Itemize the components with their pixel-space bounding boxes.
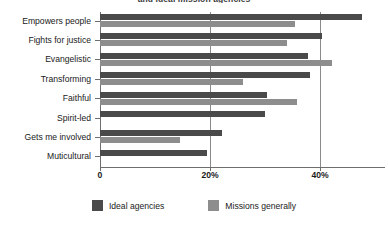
bar-missions-generally xyxy=(100,21,295,27)
category-label: Faithful xyxy=(0,93,91,103)
x-axis-line xyxy=(100,167,385,168)
category-label: Spirit-led xyxy=(0,113,91,123)
bar-missions-generally xyxy=(100,60,332,66)
category-label: Fights for justice xyxy=(0,35,91,45)
legend-item-ideal-agencies: Ideal agencies xyxy=(92,200,164,211)
bar-row: Empowers people xyxy=(100,12,385,31)
bar-ideal-agencies xyxy=(100,14,362,20)
legend-label: Ideal agencies xyxy=(109,201,164,211)
x-axis-tick-label: 0 xyxy=(98,170,103,180)
bar-ideal-agencies xyxy=(100,130,222,136)
category-label: Gets me involved xyxy=(0,132,91,142)
category-label: Transforming xyxy=(0,74,91,84)
legend-item-missions-generally: Missions generally xyxy=(208,200,296,211)
legend-swatch-icon xyxy=(208,200,219,211)
x-axis-tick-label: 20% xyxy=(201,170,218,180)
chart-legend: Ideal agencies Missions generally xyxy=(0,200,388,211)
chart-title: and ideal mission agencies xyxy=(0,0,388,3)
category-label: Empowers people xyxy=(0,16,91,26)
bar-missions-generally xyxy=(100,137,180,143)
bar-ideal-agencies xyxy=(100,150,207,156)
bar-row: Fights for justice xyxy=(100,31,385,50)
plot-area: Empowers peopleFights for justiceEvangel… xyxy=(100,12,385,167)
legend-swatch-icon xyxy=(92,200,103,211)
bar-row: Spirit-led xyxy=(100,109,385,128)
legend-label: Missions generally xyxy=(225,201,296,211)
bar-chart: and ideal mission agencies Empowers peop… xyxy=(0,0,388,235)
y-axis-tick xyxy=(95,156,100,157)
bar-ideal-agencies xyxy=(100,53,308,59)
bar-ideal-agencies xyxy=(100,33,322,39)
bar-row: Gets me involved xyxy=(100,128,385,147)
bar-missions-generally xyxy=(100,79,243,85)
bar-ideal-agencies xyxy=(100,111,265,117)
bar-row: Muticultural xyxy=(100,148,385,167)
bar-ideal-agencies xyxy=(100,92,267,98)
bar-row: Faithful xyxy=(100,90,385,109)
bar-missions-generally xyxy=(100,40,287,46)
bar-missions-generally xyxy=(100,99,297,105)
bar-row: Evangelistic xyxy=(100,51,385,70)
bar-ideal-agencies xyxy=(100,72,310,78)
category-label: Muticultural xyxy=(0,151,91,161)
x-axis-tick-label: 40% xyxy=(311,170,328,180)
y-axis-tick xyxy=(95,118,100,119)
category-label: Evangelistic xyxy=(0,54,91,64)
bar-row: Transforming xyxy=(100,70,385,89)
